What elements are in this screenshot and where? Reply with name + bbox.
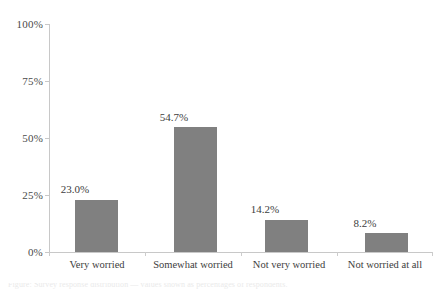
y-axis-tick-label: 0% xyxy=(3,247,43,258)
figure-caption: Figure: Survey response distribution — v… xyxy=(0,283,446,295)
x-axis-category-label: Somewhat worried xyxy=(145,259,241,271)
figure-caption-text: Figure: Survey response distribution — v… xyxy=(8,283,287,289)
y-axis-tick-label: 50% xyxy=(3,133,43,144)
bar-not-worried-at-all xyxy=(365,233,408,252)
x-tick-mark xyxy=(145,252,146,256)
x-tick-mark xyxy=(337,252,338,256)
x-axis-category-label: Not very worried xyxy=(241,259,337,271)
bar-not-very-worried xyxy=(265,220,308,252)
x-tick-mark xyxy=(241,252,242,256)
bar-value-label: 54.7% xyxy=(144,112,204,123)
bar-value-label: 14.2% xyxy=(235,204,295,215)
y-axis-tick-label: 75% xyxy=(3,76,43,87)
bar-chart: 100% 75% 50% 25% 0% 23.0% 54.7% 14.2% 8.… xyxy=(0,0,446,295)
bar-value-label: 8.2% xyxy=(335,218,395,229)
x-axis-category-label: Not worried at all xyxy=(337,259,433,271)
y-axis-tick-label: 25% xyxy=(3,190,43,201)
x-tick-mark xyxy=(432,252,433,256)
y-axis-tick-label: 100% xyxy=(3,19,43,30)
bar-somewhat-worried xyxy=(174,127,217,252)
x-tick-mark xyxy=(49,252,50,256)
x-axis-category-label: Very worried xyxy=(49,259,145,271)
bar-very-worried xyxy=(75,200,118,252)
bar-value-label: 23.0% xyxy=(45,184,105,195)
